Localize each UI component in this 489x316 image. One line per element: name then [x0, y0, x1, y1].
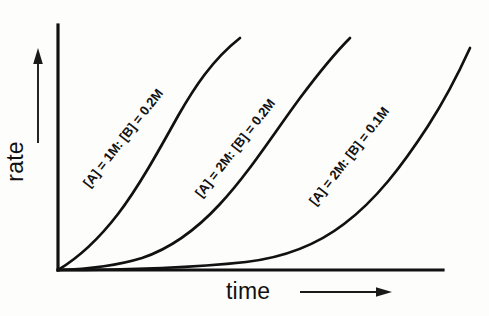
curve-series-2 [58, 48, 470, 270]
y-axis-label: rate [2, 141, 29, 181]
y-axis-arrow-group [33, 48, 43, 143]
kinetics-rate-vs-time-figure: rate time [A] = 1M: [B] = 0.2M [A] = 2M:… [0, 0, 489, 316]
plot-canvas [0, 0, 489, 316]
right-arrow-icon [376, 287, 392, 296]
x-axis-label: time [226, 278, 270, 305]
x-axis-arrow-group [300, 287, 392, 296]
curve-series-0 [58, 38, 240, 270]
up-arrow-icon [33, 48, 43, 64]
